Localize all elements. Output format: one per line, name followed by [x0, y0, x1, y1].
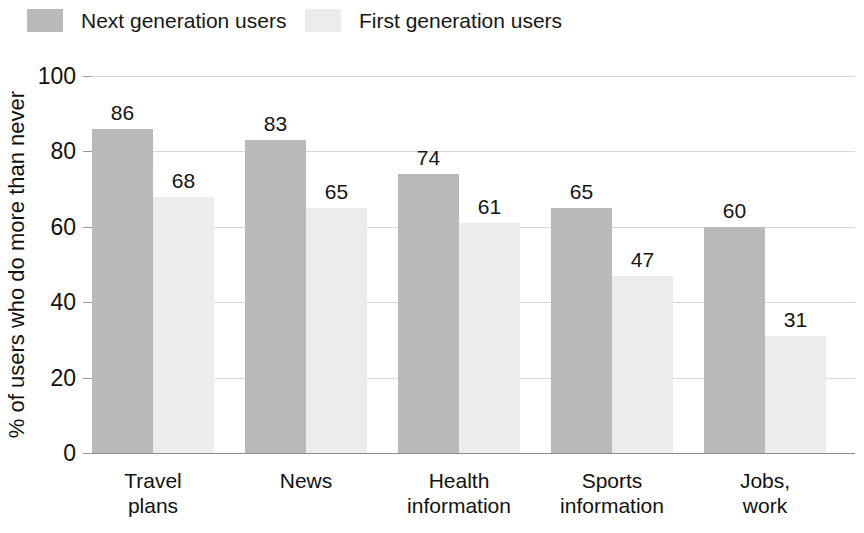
gridline-100 [92, 76, 855, 77]
y-tick-40 [83, 302, 92, 303]
y-tick-label-40: 40 [50, 289, 76, 316]
plot-area: 020406080100 86688365746165476031 [92, 76, 855, 453]
y-tick-label-80: 80 [50, 138, 76, 165]
bar-1-0: 68 [153, 197, 214, 453]
bar-0-0: 86 [92, 129, 153, 453]
bar-1-1: 65 [306, 208, 367, 453]
y-tick-80 [83, 151, 92, 152]
y-tick-label-0: 0 [63, 440, 76, 467]
bar-0-4: 60 [704, 227, 765, 453]
bar-0-1: 83 [245, 140, 306, 453]
bar-1-2: 61 [459, 223, 520, 453]
x-axis-label-line: plans [63, 493, 243, 518]
y-tick-0 [83, 453, 92, 454]
y-tick-20 [83, 378, 92, 379]
x-axis-label-line: work [675, 493, 855, 518]
bar-value-label: 61 [478, 196, 501, 218]
bar-chart: % of users who do more than never 020406… [0, 0, 864, 533]
y-tick-60 [83, 227, 92, 228]
bar-1-4: 31 [765, 336, 826, 453]
bar-1-3: 47 [612, 276, 673, 453]
gridline-0 [92, 453, 855, 454]
bar-0-2: 74 [398, 174, 459, 453]
y-tick-100 [83, 76, 92, 77]
bar-value-label: 65 [325, 181, 348, 203]
bar-value-label: 65 [570, 181, 593, 203]
gridline-80 [92, 151, 855, 152]
y-axis-title: % of users who do more than never [2, 76, 32, 453]
bar-0-3: 65 [551, 208, 612, 453]
bar-value-label: 83 [264, 113, 287, 135]
bar-value-label: 68 [172, 170, 195, 192]
y-tick-label-60: 60 [50, 213, 76, 240]
bar-value-label: 86 [111, 102, 134, 124]
bar-value-label: 74 [417, 147, 440, 169]
x-axis-label-line: Jobs, [675, 468, 855, 493]
x-axis-label-4: Jobs,work [675, 468, 855, 518]
bar-value-label: 31 [784, 309, 807, 331]
bar-value-label: 47 [631, 249, 654, 271]
y-tick-label-100: 100 [38, 63, 76, 90]
y-tick-label-20: 20 [50, 364, 76, 391]
bar-value-label: 60 [723, 200, 746, 222]
